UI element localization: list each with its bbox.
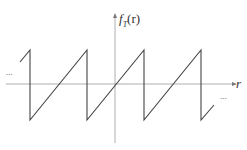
sawtooth-wave: [20, 50, 214, 120]
x-axis-label: r: [236, 77, 241, 90]
right-ellipsis: ...: [220, 92, 227, 101]
y-axis-arrow-icon: [113, 13, 117, 18]
left-ellipsis: ...: [6, 68, 13, 77]
y-axis-label: fT(r): [119, 12, 140, 29]
